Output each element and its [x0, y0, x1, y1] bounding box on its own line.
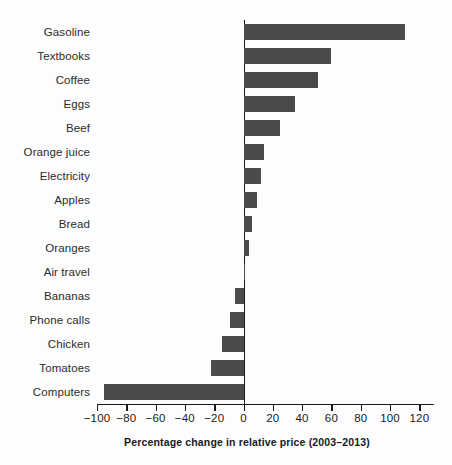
bar: [244, 144, 265, 160]
category-label: Beef: [0, 122, 90, 134]
bar: [104, 384, 243, 400]
category-label: Bread: [0, 218, 90, 230]
category-label: Electricity: [0, 170, 90, 182]
category-label: Orange juice: [0, 146, 90, 158]
x-axis-tick: [126, 405, 127, 411]
x-axis-tick: [156, 405, 157, 411]
category-axis-labels: GasolineTextbooksCoffeeEggsBeefOrange ju…: [0, 20, 90, 404]
bar: [244, 96, 295, 112]
x-axis-tick: [361, 405, 362, 411]
category-label: Bananas: [0, 290, 90, 302]
x-axis-title: Percentage change in relative price (200…: [0, 436, 452, 448]
x-axis-tick: [390, 405, 391, 411]
bar: [235, 288, 244, 304]
bar: [244, 192, 257, 208]
category-label: Air travel: [0, 266, 90, 278]
plot-area: [97, 20, 434, 404]
bar: [230, 312, 243, 328]
category-label: Computers: [0, 386, 90, 398]
bar: [244, 216, 253, 232]
bar: [244, 120, 281, 136]
category-label: Eggs: [0, 98, 90, 110]
category-label: Tomatoes: [0, 362, 90, 374]
x-axis-tick-label: 120: [399, 412, 439, 424]
bar: [211, 360, 243, 376]
bar: [244, 264, 245, 280]
x-axis-tick: [331, 405, 332, 411]
relative-price-change-bar-chart: GasolineTextbooksCoffeeEggsBeefOrange ju…: [0, 0, 452, 465]
category-label: Coffee: [0, 74, 90, 86]
x-axis-tick: [214, 405, 215, 411]
x-axis-tick: [185, 405, 186, 411]
category-label: Chicken: [0, 338, 90, 350]
category-label: Phone calls: [0, 314, 90, 326]
x-axis-tick: [273, 405, 274, 411]
x-axis-tick: [97, 405, 98, 411]
bar: [244, 48, 332, 64]
bar: [244, 24, 405, 40]
x-axis-tick: [302, 405, 303, 411]
x-axis-tick: [419, 405, 420, 411]
category-label: Oranges: [0, 242, 90, 254]
category-label: Apples: [0, 194, 90, 206]
bar: [244, 240, 250, 256]
category-label: Gasoline: [0, 26, 90, 38]
x-axis-line: [97, 404, 434, 405]
x-axis-tick: [244, 405, 245, 411]
bar: [244, 168, 262, 184]
category-label: Textbooks: [0, 50, 90, 62]
bar: [244, 72, 319, 88]
bar: [222, 336, 244, 352]
